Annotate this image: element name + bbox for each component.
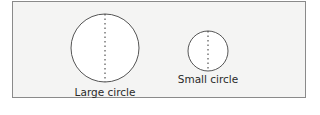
large-circle	[71, 14, 139, 82]
small-circle	[188, 31, 228, 71]
circles-canvas	[0, 0, 320, 115]
large-circle-label: Large circle	[75, 86, 136, 98]
small-circle-label: Small circle	[178, 73, 238, 85]
